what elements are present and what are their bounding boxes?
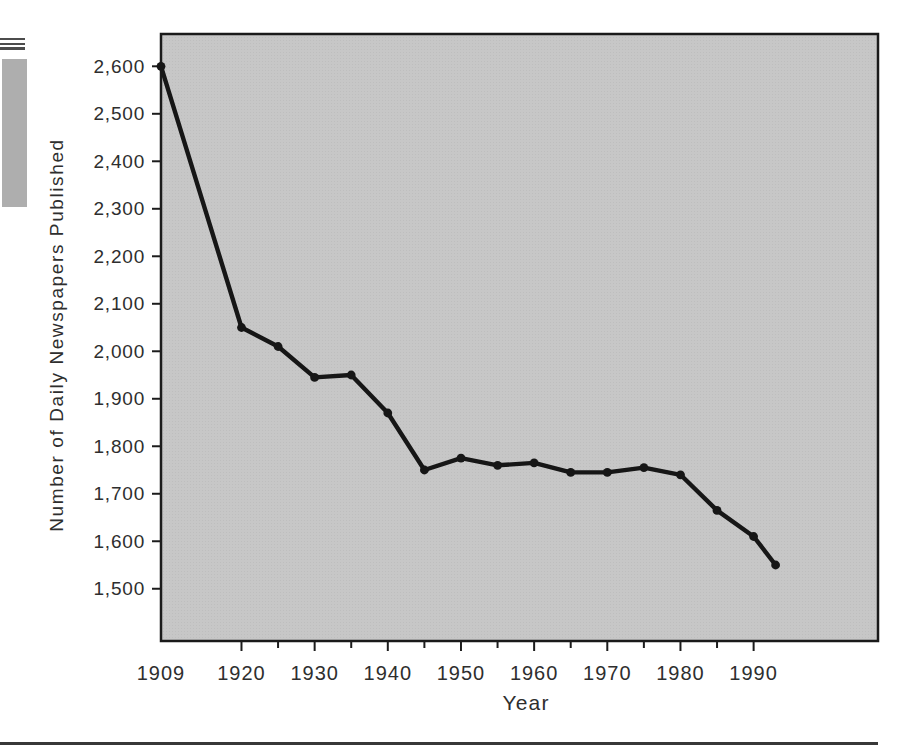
y-tick-label: 2,600 (93, 56, 145, 77)
y-tick-label: 1,700 (93, 483, 145, 504)
data-point (493, 461, 502, 470)
data-point (383, 409, 392, 418)
data-point (771, 561, 780, 570)
data-point (157, 62, 166, 71)
x-tick-label: 1980 (656, 662, 705, 684)
data-point (457, 454, 466, 463)
newspapers-line-chart: 1,5001,6001,7001,8001,9002,0002,1002,200… (0, 0, 920, 746)
x-tick-label: 1950 (437, 662, 486, 684)
x-axis-title: Year (502, 691, 549, 715)
y-tick-label: 2,300 (93, 198, 145, 219)
data-point (713, 506, 722, 515)
y-axis-ticks: 1,5001,6001,7001,8001,9002,0002,1002,200… (93, 56, 161, 599)
x-tick-label: 1909 (137, 662, 186, 684)
y-tick-label: 2,100 (93, 293, 145, 314)
data-point (749, 532, 758, 541)
y-tick-label: 2,500 (93, 103, 145, 124)
x-axis-labels: 190919201930194019501960197019801990 (137, 662, 778, 684)
data-point (310, 373, 319, 382)
data-point (420, 466, 429, 475)
data-point (237, 323, 246, 332)
data-point (603, 468, 612, 477)
y-tick-label: 2,400 (93, 151, 145, 172)
x-tick-label: 1990 (729, 662, 778, 684)
x-tick-label: 1970 (583, 662, 632, 684)
data-point (530, 459, 539, 468)
data-point (274, 342, 283, 351)
plot-area (161, 34, 878, 641)
x-tick-label: 1930 (290, 662, 339, 684)
x-tick-label: 1960 (510, 662, 559, 684)
y-tick-label: 1,900 (93, 388, 145, 409)
y-tick-label: 2,200 (93, 246, 145, 267)
y-tick-label: 2,000 (93, 341, 145, 362)
y-tick-label: 1,500 (93, 578, 145, 599)
data-point (347, 371, 356, 380)
data-point (676, 470, 685, 479)
bottom-page-rule (0, 742, 878, 745)
data-point (566, 468, 575, 477)
x-tick-label: 1940 (364, 662, 413, 684)
scanned-figure-page: Number of Daily Newspapers Published 1,5… (0, 0, 920, 746)
x-tick-label: 1920 (217, 662, 266, 684)
y-tick-label: 1,800 (93, 436, 145, 457)
data-point (640, 463, 649, 472)
y-tick-label: 1,600 (93, 531, 145, 552)
x-axis-ticks (241, 641, 753, 651)
